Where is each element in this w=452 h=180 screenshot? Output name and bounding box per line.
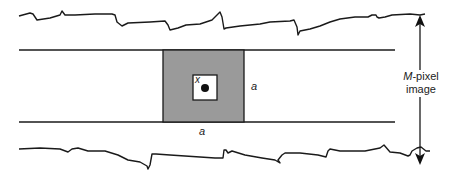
- diagram-svg: [0, 0, 452, 180]
- window-side-bottom-label: a: [199, 125, 205, 137]
- image-size-label: M-pixel image: [402, 70, 440, 96]
- center-pixel-dot: [201, 84, 209, 92]
- torn-bottom-edge: [19, 145, 430, 169]
- image-size-line2: image: [406, 83, 436, 95]
- window-side-right-label: a: [251, 80, 257, 92]
- center-pixel-label: x: [195, 74, 200, 86]
- sliding-window-diagram: x a a M-pixel image: [0, 0, 452, 180]
- image-size-suffix: -pixel: [412, 70, 438, 82]
- torn-top-edge: [19, 11, 425, 35]
